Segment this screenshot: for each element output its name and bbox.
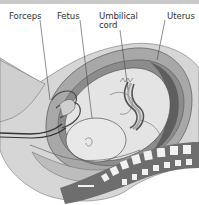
label-fetus: Fetus [57,12,80,21]
forceps-delivery-illustration [0,0,199,205]
label-forceps: Forceps [9,12,41,21]
label-umbilical-cord: Umbilical cord [99,12,138,30]
fetus-head [66,118,126,162]
label-uterus: Uterus [167,12,195,21]
label-umbilical-line2: cord [99,21,138,30]
